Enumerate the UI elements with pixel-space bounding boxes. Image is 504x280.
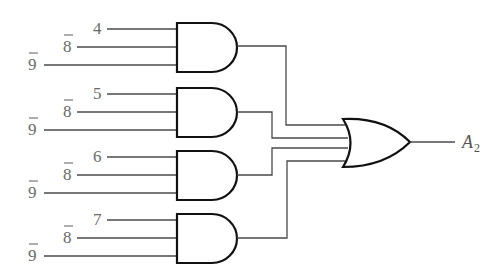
input-label: 8 — [63, 165, 72, 184]
input-label: 9 — [28, 55, 37, 74]
input-label: 8 — [63, 228, 72, 247]
input-label: 4 — [93, 19, 102, 38]
and-gate-2 — [177, 88, 237, 137]
and-gate-2-inputs: 5 8 9 — [28, 84, 177, 139]
input-label: 9 — [28, 246, 37, 265]
and-gate-3-inputs: 6 8 9 — [28, 147, 177, 202]
input-label: 9 — [28, 120, 37, 139]
and-4-to-or-wire — [237, 161, 345, 238]
input-label: 5 — [93, 84, 102, 103]
output-label: A2 — [461, 132, 480, 155]
and-gate-4-inputs: 7 8 9 — [28, 210, 177, 265]
and-gate-4 — [177, 214, 237, 263]
and-gate-1-inputs: 4 8 9 — [28, 19, 177, 74]
input-label: 7 — [93, 210, 102, 229]
and-1-to-or-wire — [237, 46, 345, 125]
or-gate — [343, 119, 410, 167]
input-label: 6 — [93, 147, 102, 166]
and-gate-1 — [177, 23, 237, 72]
input-label: 9 — [28, 183, 37, 202]
and-gate-3 — [177, 151, 237, 200]
input-label: 8 — [63, 102, 72, 121]
logic-circuit-diagram: 4 8 9 5 8 9 6 8 9 7 8 — [0, 0, 504, 280]
input-label: 8 — [63, 37, 72, 56]
